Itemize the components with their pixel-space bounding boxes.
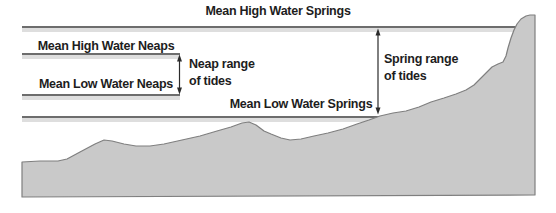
mean-low-water-neaps-label: Mean Low Water Neaps: [39, 77, 173, 91]
mhwn-line-shadow: [22, 55, 180, 59]
mean-low-water-springs-label: Mean Low Water Springs: [230, 97, 373, 111]
tidal-range-diagram: Mean High Water Springs Mean High Water …: [0, 0, 556, 213]
mean-high-water-neaps-label: Mean High Water Neaps: [38, 39, 175, 53]
mlwn-line-shadow: [22, 96, 180, 100]
mean-high-water-springs-label: Mean High Water Springs: [205, 4, 350, 18]
neap-arrow-head-down: [177, 88, 182, 95]
neap-range-label: Neap range of tides: [189, 56, 255, 90]
mhws-line-shadow: [22, 28, 516, 32]
spring-range-label: Spring range of tides: [384, 51, 458, 85]
spring-arrow-head-down: [376, 108, 381, 115]
neap-range-arrow: [177, 55, 182, 95]
mlws-line-shadow: [22, 118, 378, 122]
spring-range-arrow: [376, 29, 381, 115]
